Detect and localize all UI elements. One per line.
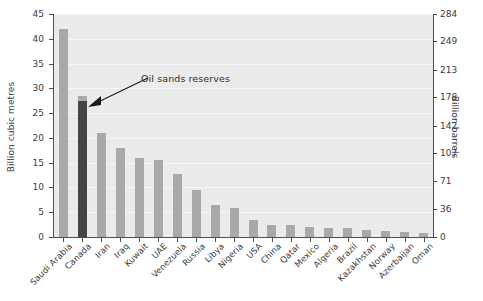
y-tick-right: 107 <box>440 149 457 158</box>
bar-libya[interactable] <box>211 205 220 237</box>
y-tickmark-left <box>49 14 53 15</box>
y-tickmark-left <box>49 39 53 40</box>
bar-saudi-arabia[interactable] <box>59 29 68 237</box>
bar-russia[interactable] <box>192 190 201 237</box>
y-tickmark-left <box>49 187 53 188</box>
bar-segment-proven <box>362 230 371 237</box>
bar-segment-oil-sands <box>78 101 87 237</box>
y-tickmark-right <box>433 237 437 238</box>
bar-slot[interactable] <box>149 14 168 237</box>
bar-china[interactable] <box>267 225 276 237</box>
bar-slot[interactable] <box>414 14 433 237</box>
y-axis-label-left: Billion cubic metres <box>6 72 16 182</box>
annotation-oil-sands-reserves: Oil sands reserves <box>141 73 230 84</box>
y-axis-ticks-right: 03671107142178213249284 <box>437 10 461 242</box>
x-label-china: China <box>258 241 283 266</box>
y-tickmark-left <box>49 113 53 114</box>
bar-segment-proven <box>286 225 295 237</box>
y-tick-right: 178 <box>440 93 457 102</box>
bar-segment-proven <box>324 228 333 237</box>
y-tick-left: 0 <box>38 233 44 242</box>
bar-kuwait[interactable] <box>135 158 144 237</box>
bar-segment-proven <box>343 228 352 237</box>
bar-segment-proven <box>305 227 314 237</box>
bar-slot[interactable] <box>168 14 187 237</box>
bar-slot[interactable] <box>92 14 111 237</box>
bar-nigeria[interactable] <box>230 208 239 237</box>
bar-iraq[interactable] <box>116 148 125 237</box>
y-tick-left: 30 <box>33 84 44 93</box>
y-tickmark-right <box>433 209 437 210</box>
y-tick-left: 45 <box>33 10 44 19</box>
bar-slot[interactable] <box>73 14 92 237</box>
y-tick-left: 25 <box>33 109 44 118</box>
bar-segment-proven <box>135 158 144 237</box>
bar-slot[interactable] <box>130 14 149 237</box>
y-tick-left: 10 <box>33 183 44 192</box>
bar-qatar[interactable] <box>286 225 295 237</box>
y-tickmark-right <box>433 97 437 98</box>
y-tickmark-left <box>49 237 53 238</box>
bar-segment-proven <box>154 160 163 237</box>
y-tickmark-right <box>433 153 437 154</box>
bar-group <box>54 14 433 237</box>
bar-slot[interactable] <box>357 14 376 237</box>
bar-slot[interactable] <box>187 14 206 237</box>
y-tick-right: 0 <box>440 233 446 242</box>
bar-venezuela[interactable] <box>173 174 182 237</box>
bar-slot[interactable] <box>300 14 319 237</box>
y-tickmark-left <box>49 64 53 65</box>
y-tick-right: 213 <box>440 66 457 75</box>
y-tick-left: 40 <box>33 35 44 44</box>
y-tickmark-left <box>49 212 53 213</box>
y-tick-left: 5 <box>38 208 44 217</box>
bar-segment-proven <box>192 190 201 237</box>
y-tickmark-left <box>49 88 53 89</box>
x-axis-labels: Saudi ArabiaCanadaIranIraqKuwaitUAEVenez… <box>54 241 433 301</box>
y-tick-right: 36 <box>440 205 451 214</box>
bar-slot[interactable] <box>319 14 338 237</box>
y-tick-right: 284 <box>440 10 457 19</box>
bar-slot[interactable] <box>376 14 395 237</box>
axis-line-bottom <box>53 237 434 238</box>
bar-segment-proven <box>59 29 68 237</box>
plot-area <box>54 14 433 237</box>
y-axis-ticks-left: 051015202530354045 <box>24 10 48 242</box>
bar-usa[interactable] <box>249 220 258 237</box>
y-tickmark-right <box>433 41 437 42</box>
bar-algeria[interactable] <box>324 228 333 237</box>
y-tick-left: 35 <box>33 60 44 69</box>
bar-slot[interactable] <box>54 14 73 237</box>
bar-canada[interactable] <box>78 96 87 237</box>
y-tickmark-left <box>49 138 53 139</box>
axis-line-left <box>53 14 54 238</box>
bar-slot[interactable] <box>206 14 225 237</box>
bar-slot[interactable] <box>395 14 414 237</box>
bar-brazil[interactable] <box>343 228 352 237</box>
bar-segment-proven <box>267 225 276 237</box>
y-tick-right: 71 <box>440 177 451 186</box>
y-tickmark-right <box>433 14 437 15</box>
bar-uae[interactable] <box>154 160 163 237</box>
y-tick-left: 15 <box>33 159 44 168</box>
bar-segment-proven <box>211 205 220 237</box>
bar-kazakhstan[interactable] <box>362 230 371 237</box>
bar-slot[interactable] <box>262 14 281 237</box>
bar-mexico[interactable] <box>305 227 314 237</box>
bar-iran[interactable] <box>97 133 106 237</box>
y-tick-left: 20 <box>33 134 44 143</box>
oil-reserves-bar-chart: Billion cubic metres Billion barrels 051… <box>0 0 483 301</box>
y-tickmark-right <box>433 70 437 71</box>
bar-segment-proven <box>97 133 106 237</box>
bar-segment-proven <box>116 148 125 237</box>
bar-slot[interactable] <box>225 14 244 237</box>
bar-slot[interactable] <box>338 14 357 237</box>
y-tick-right: 142 <box>440 122 457 131</box>
bar-slot[interactable] <box>111 14 130 237</box>
bar-slot[interactable] <box>244 14 263 237</box>
y-tickmark-right <box>433 126 437 127</box>
y-tickmark-right <box>433 181 437 182</box>
bar-slot[interactable] <box>281 14 300 237</box>
bar-segment-proven <box>249 220 258 237</box>
bar-segment-proven <box>230 208 239 237</box>
